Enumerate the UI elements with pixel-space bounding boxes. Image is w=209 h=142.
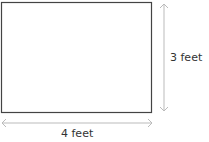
width-arrow [2,119,152,127]
height-arrow [160,4,168,111]
diagram-canvas [0,0,209,142]
width-label: 4 feet [61,127,93,140]
rectangle [2,3,152,113]
height-label: 3 feet [170,51,202,64]
